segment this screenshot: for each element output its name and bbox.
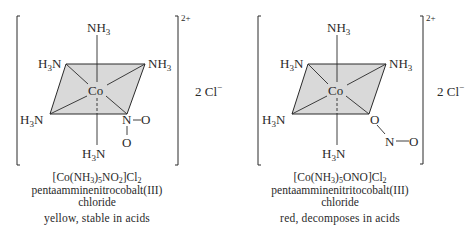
ligand-upper-right: NH3 <box>148 56 172 73</box>
caption-nitro: [Co(NH3)5NO2]Cl2 pentaamminenitrocobalt(… <box>0 171 197 209</box>
nitro-o: O <box>141 112 150 127</box>
ligand-upper-right: NH3 <box>389 56 413 73</box>
left-bracket <box>258 16 261 165</box>
complex-nitro: NH3 H3N NH3 Co H3N H3N N O O 2+ 2 Cl− <box>17 13 222 165</box>
complex-charge: 2+ <box>181 13 191 23</box>
ligand-top: NH3 <box>87 20 111 37</box>
ligand-bottom: H3N <box>82 146 106 163</box>
description-nitro: yellow, stable in acids <box>0 212 197 224</box>
ligand-upper-left: H3N <box>280 56 304 73</box>
compound-name-suffix: chloride <box>0 196 197 209</box>
counter-ion: 2 Cl− <box>195 82 222 99</box>
ligand-top: NH3 <box>327 20 351 37</box>
ligand-lower-left: H3N <box>20 112 44 129</box>
nitrito-n: N <box>385 134 395 149</box>
compound-name: pentaamminenitritocobalt(III) <box>240 184 440 197</box>
nitrito-o: O <box>370 112 379 127</box>
compound-name: pentaamminenitrocobalt(III) <box>0 184 197 197</box>
metal-center: Co <box>328 83 343 98</box>
description-nitrito: red, decomposes in acids <box>240 212 440 224</box>
counter-ion: 2 Cl− <box>437 82 464 99</box>
right-bracket <box>175 16 178 165</box>
nitrito-o: O <box>409 134 418 149</box>
ligand-upper-left: H3N <box>38 56 62 73</box>
right-bracket <box>420 16 423 164</box>
metal-center: Co <box>88 83 103 98</box>
complex-charge: 2+ <box>426 13 436 23</box>
ligand-bottom: H3N <box>322 146 346 163</box>
formula: [Co(NH3)5NO2]Cl2 <box>0 171 197 184</box>
complex-nitrito: NH3 H3N NH3 Co H3N H3N O N O 2+ 2 Cl− <box>258 13 464 165</box>
nitro-o: O <box>122 135 131 150</box>
caption-nitrito: [Co(NH3)5ONO]Cl2 pentaamminenitritocobal… <box>240 171 440 209</box>
compound-name-suffix: chloride <box>240 196 440 209</box>
left-bracket <box>17 16 20 165</box>
formula: [Co(NH3)5ONO]Cl2 <box>240 171 440 184</box>
ligand-lower-left: H3N <box>262 112 286 129</box>
nitro-n: N <box>122 112 132 127</box>
